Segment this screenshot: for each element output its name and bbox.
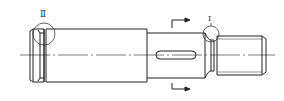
detail-label-2: Ⅱ	[40, 10, 46, 19]
left-collar	[30, 29, 44, 82]
undercut-groove	[205, 33, 214, 78]
left-groove	[38, 30, 44, 81]
threaded-end	[217, 36, 266, 75]
section-arrow-top	[172, 18, 190, 28]
detail-label-1: Ⅰ	[208, 15, 211, 23]
section-arrow-bottom	[172, 83, 190, 91]
